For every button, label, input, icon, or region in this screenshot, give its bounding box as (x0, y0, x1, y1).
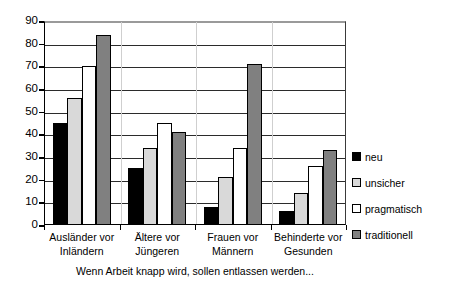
legend-item[interactable]: pragmatisch (352, 198, 456, 219)
y-tick-mark-30 (39, 157, 44, 159)
bar-group (44, 21, 120, 225)
bar (172, 132, 187, 225)
legend-item[interactable]: traditionell (352, 224, 456, 245)
legend-label: unsicher (365, 177, 405, 189)
y-tick-mark-20 (39, 180, 44, 182)
legend-label: neu (365, 151, 383, 163)
bar (323, 150, 338, 225)
y-tick-label-90: 90 (12, 15, 38, 27)
y-tick-mark-40 (39, 134, 44, 136)
bars-layer (44, 21, 346, 225)
y-tick-mark-50 (39, 112, 44, 114)
legend-item[interactable]: unsicher (352, 172, 456, 193)
bar (279, 211, 294, 225)
x-axis-label-line: Behinderte vor (263, 231, 355, 245)
bar-group (195, 21, 271, 225)
x-tick-mark (44, 225, 45, 230)
bar (82, 66, 97, 225)
bar-group (271, 21, 347, 225)
x-tick-mark (346, 225, 347, 230)
y-axis-labels: 0102030405060708090 (8, 21, 38, 225)
bar (294, 193, 309, 225)
bar (218, 177, 233, 225)
x-axis-labels: Ausländer vorInländernÄltere vorJüngeren… (44, 231, 346, 265)
legend-label: traditionell (365, 229, 413, 241)
y-tick-label-60: 60 (12, 83, 38, 95)
y-tick-mark-10 (39, 202, 44, 204)
legend-swatch-icon (352, 178, 361, 187)
x-axis-label: Behinderte vorGesunden (263, 231, 355, 258)
x-tick-mark (120, 225, 121, 230)
bar (157, 123, 172, 225)
y-tick-mark-90 (39, 21, 44, 23)
y-tick-label-30: 30 (12, 151, 38, 163)
bar (308, 166, 323, 225)
y-tick-label-40: 40 (12, 129, 38, 141)
bar (96, 35, 111, 225)
x-tick-mark (271, 225, 272, 230)
y-tick-mark-70 (39, 66, 44, 68)
y-tick-label-0: 0 (12, 219, 38, 231)
y-tick-label-10: 10 (12, 197, 38, 209)
y-tick-mark-80 (39, 44, 44, 46)
bar (204, 207, 219, 225)
legend-swatch-icon (352, 204, 361, 213)
chart-caption: Wenn Arbeit knapp wird, sollen entlassen… (44, 265, 346, 277)
y-tick-label-20: 20 (12, 174, 38, 186)
x-tick-mark (195, 225, 196, 230)
chart-page: 0102030405060708090 Ausländer vorInlände… (0, 0, 459, 290)
y-tick-mark-60 (39, 89, 44, 91)
bar (143, 148, 158, 225)
legend-swatch-icon (352, 230, 361, 239)
legend-label: pragmatisch (365, 203, 422, 215)
x-axis-label-line: Gesunden (263, 245, 355, 259)
bar (128, 168, 143, 225)
legend-item[interactable]: neu (352, 146, 456, 167)
bar (233, 148, 248, 225)
chart-legend: neuunsicherpragmatischtraditionell (352, 146, 456, 250)
legend-swatch-icon (352, 152, 361, 161)
y-tick-label-80: 80 (12, 38, 38, 50)
bar-group (120, 21, 196, 225)
y-tick-label-50: 50 (12, 106, 38, 118)
y-tick-label-70: 70 (12, 61, 38, 73)
bar (67, 98, 82, 225)
bar (247, 64, 262, 225)
bar (53, 123, 68, 225)
